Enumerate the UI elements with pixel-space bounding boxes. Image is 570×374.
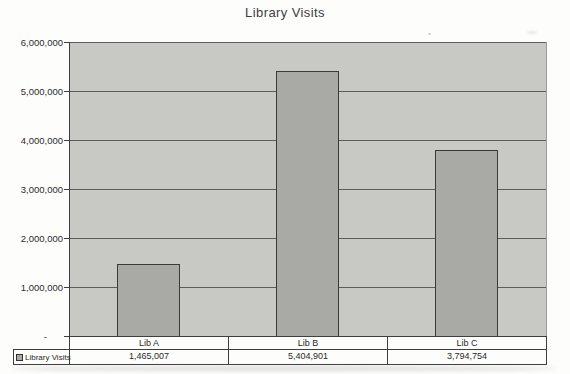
bar-slot	[69, 42, 228, 336]
y-tick-mark	[64, 189, 69, 190]
table-header-cell: Lib A	[70, 337, 228, 349]
legend-key-icon	[16, 354, 23, 361]
bar	[117, 264, 180, 336]
table-value-row: 1,465,0075,404,9013,794,754	[70, 350, 546, 364]
bar	[276, 71, 339, 336]
bar-slot	[228, 42, 387, 336]
legend-label: Library Visits	[25, 353, 71, 362]
plot-area	[69, 42, 547, 336]
chart-title: Library Visits	[0, 5, 570, 20]
y-axis-line	[69, 42, 70, 337]
y-tick-mark	[64, 42, 69, 43]
table-value-cell: 5,404,901	[228, 350, 387, 364]
bar-slot	[387, 42, 546, 336]
y-tick-mark	[64, 287, 69, 288]
y-axis-label: 2,000,000	[0, 233, 63, 244]
legend-cell: Library Visits	[13, 349, 70, 365]
table-header-cell: Lib C	[387, 337, 546, 349]
chart-canvas: Library Visits 6,000,0005,000,0004,000,0…	[0, 0, 570, 374]
table-header-row: Lib ALib BLib C	[70, 337, 546, 350]
y-tick-mark	[64, 238, 69, 239]
y-axis-label: 6,000,000	[0, 37, 63, 48]
y-axis-label: 5,000,000	[0, 86, 63, 97]
table-value-cell: 1,465,007	[70, 350, 228, 364]
scan-speck	[428, 33, 431, 35]
table-value-cell: 3,794,754	[387, 350, 546, 364]
y-tick-mark	[64, 140, 69, 141]
y-tick-mark	[64, 91, 69, 92]
y-axis-label: -	[0, 331, 63, 342]
scan-shadow-artifact	[10, 366, 558, 371]
y-axis-label: 4,000,000	[0, 135, 63, 146]
y-axis-label: 3,000,000	[0, 184, 63, 195]
y-axis-label: 1,000,000	[0, 282, 63, 293]
bars-group	[69, 42, 546, 336]
scan-speck	[527, 31, 537, 34]
table-header-cell: Lib B	[228, 337, 387, 349]
y-tick-mark	[64, 336, 69, 337]
data-table: Lib ALib BLib C 1,465,0075,404,9013,794,…	[69, 336, 547, 365]
bar	[435, 150, 498, 336]
